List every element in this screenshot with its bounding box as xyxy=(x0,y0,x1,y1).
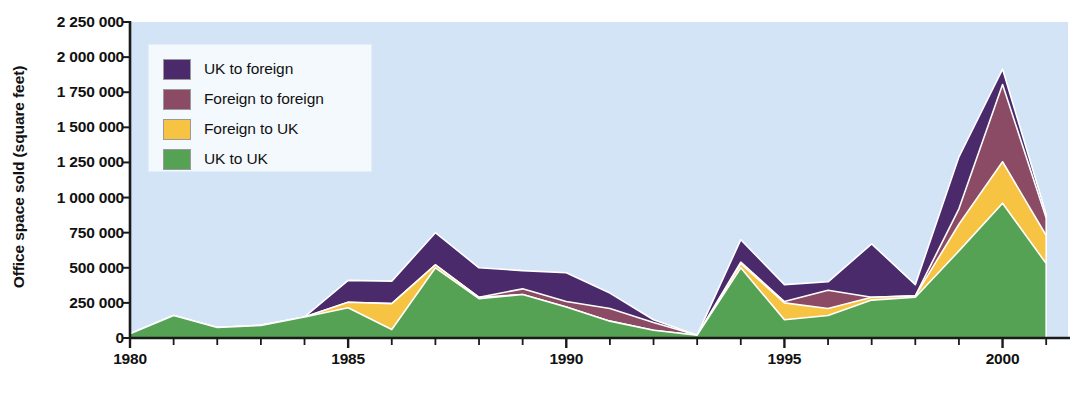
legend-swatch-icon xyxy=(163,119,191,140)
legend-label: UK to foreign xyxy=(204,60,293,78)
legend-item: UK to foreign xyxy=(163,55,371,83)
x-axis-tick-label: 1995 xyxy=(768,350,802,368)
legend-swatch-icon xyxy=(163,89,191,110)
legend-item: Foreign to foreign xyxy=(163,85,371,113)
x-axis-tick-label: 1990 xyxy=(549,350,583,368)
legend-label: UK to UK xyxy=(204,150,268,168)
legend-swatch-icon xyxy=(163,59,191,80)
chart-legend: UK to foreignForeign to foreignForeign t… xyxy=(148,44,372,172)
x-axis-tick-label: 1980 xyxy=(113,350,147,368)
legend-item: Foreign to UK xyxy=(163,115,371,143)
legend-label: Foreign to foreign xyxy=(204,90,324,108)
area-chart: Office space sold (square feet) 0250 000… xyxy=(0,0,1086,396)
legend-swatch-icon xyxy=(163,149,191,170)
x-axis-tick-label: 1985 xyxy=(331,350,365,368)
legend-item: UK to UK xyxy=(163,145,371,173)
x-axis-tick-label: 2000 xyxy=(986,350,1020,368)
legend-label: Foreign to UK xyxy=(204,120,298,138)
